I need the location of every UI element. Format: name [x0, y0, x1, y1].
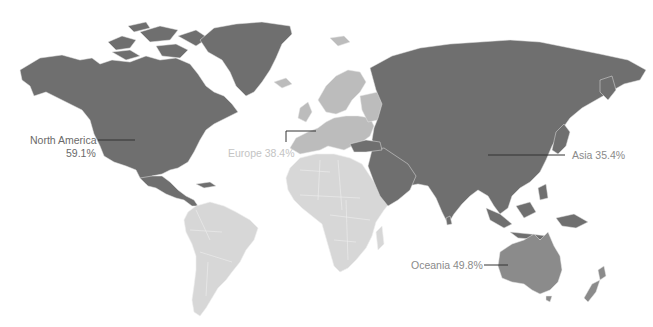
world-map [0, 0, 653, 327]
label-north-america-name: North America [30, 134, 97, 146]
label-north-america-value: 59.1% [66, 147, 96, 159]
region-south-america [184, 202, 258, 316]
label-europe: Europe 38.4% [228, 147, 295, 159]
label-asia: Asia 35.4% [572, 149, 625, 161]
region-north-america [20, 22, 292, 206]
region-europe [274, 36, 384, 154]
region-oceania [498, 232, 606, 302]
region-asia [350, 40, 646, 240]
label-oceania: Oceania 49.8% [411, 259, 483, 271]
